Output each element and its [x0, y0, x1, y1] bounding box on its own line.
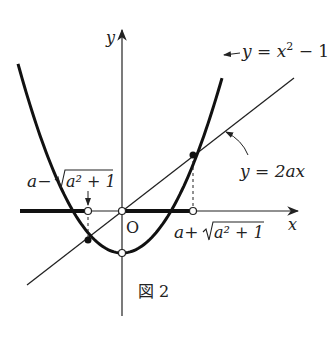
open-point-origin	[119, 208, 126, 215]
left-root-label-a: a−	[27, 171, 51, 191]
parabola-label-main: y = x	[241, 41, 287, 61]
open-point-left-root	[85, 208, 92, 215]
parabola-label: y = x2 − 1	[241, 40, 329, 61]
right-root-label: a+ a² + 1	[174, 222, 264, 242]
x-axis-label: x	[288, 215, 297, 234]
leader-arrow-parabola	[224, 53, 240, 55]
left-root-label-sqrt: a² + 1	[66, 172, 116, 191]
left-root-label: a− a² + 1	[27, 170, 116, 191]
intersection-point-left	[85, 237, 92, 244]
figure-caption: 図 2	[138, 282, 169, 301]
leader-arrow-line	[226, 132, 248, 155]
right-root-label-sqrt: a² + 1	[214, 223, 264, 242]
parabola-label-sup: 2	[286, 40, 293, 53]
open-point-vertex	[119, 250, 126, 257]
y-axis-label: y	[105, 28, 116, 47]
open-point-right-root	[190, 208, 197, 215]
figure: y x O y = x2 − 1 y = 2ax a− a² + 1 a+ a²…	[0, 0, 336, 346]
parabola-label-tail: − 1	[293, 41, 329, 61]
origin-label: O	[126, 218, 139, 237]
intersection-point-right	[190, 152, 197, 159]
line-label: y = 2ax	[239, 161, 306, 181]
right-root-label-a: a+	[174, 222, 198, 242]
